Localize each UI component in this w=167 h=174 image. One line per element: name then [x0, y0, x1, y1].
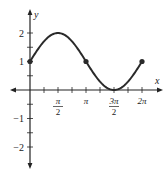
- x-tick-label: 2π: [137, 96, 147, 106]
- y-axis-label: y: [33, 9, 39, 20]
- x-tick-label: π: [84, 96, 89, 106]
- axes: x y: [13, 9, 160, 166]
- y-tick-label: 1: [19, 56, 24, 67]
- x-ticks: π2π3π22π: [44, 87, 147, 117]
- point-marker: [83, 59, 88, 64]
- y-tick-label: 2: [19, 28, 24, 39]
- x-tick-label-num: π: [56, 96, 61, 106]
- x-tick-label-den: 2: [56, 107, 61, 117]
- function-graph: x y π2π3π22π 21−1−2: [0, 0, 167, 174]
- y-tick-label: −1: [13, 113, 24, 124]
- x-tick-label-den: 2: [112, 107, 117, 117]
- x-axis-label: x: [154, 75, 160, 86]
- point-marker: [27, 59, 32, 64]
- x-tick-label-num: 3π: [108, 96, 119, 106]
- y-tick-label: −2: [13, 142, 24, 153]
- marked-points: [27, 59, 144, 64]
- point-marker: [139, 59, 144, 64]
